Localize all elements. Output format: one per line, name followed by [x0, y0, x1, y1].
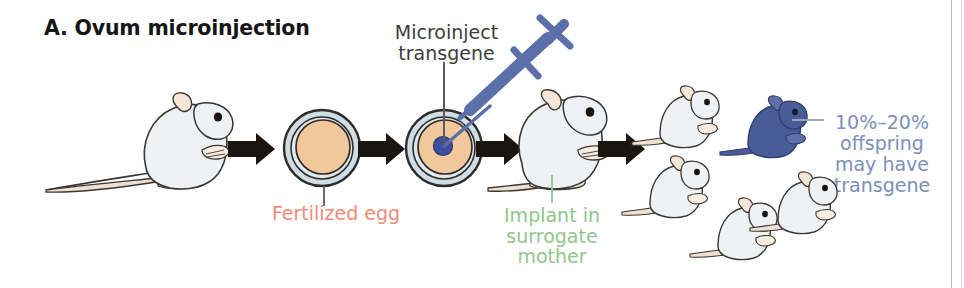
microinject-label: Microinject transgene	[379, 22, 514, 64]
page-divider-rule	[951, 0, 952, 288]
offspring-mouse-transgenic	[718, 94, 818, 168]
donor-mouse	[38, 92, 238, 207]
microinject-leader-line	[443, 62, 445, 146]
implant-label: Implant in surrogate mother	[482, 205, 622, 267]
figure-panel-a: A. Ovum microinjection	[0, 0, 964, 288]
fertilized-egg-label: Fertilized egg	[256, 203, 416, 224]
page-title: A. Ovum microinjection	[44, 16, 310, 40]
offspring-mouse-1	[630, 86, 730, 158]
egg-cytoplasm-icon	[296, 120, 350, 174]
mouse-forepaw-icon	[202, 145, 229, 159]
implant-leader-line	[551, 175, 553, 203]
page-edge-rule	[961, 0, 962, 288]
flow-arrow-2	[358, 132, 406, 166]
mouse-eye-icon	[586, 107, 595, 117]
offspring-mouse-5	[748, 172, 848, 244]
flow-arrow-1	[228, 132, 276, 166]
fertilized-egg	[282, 108, 362, 188]
mouse-eye-icon	[214, 112, 222, 121]
